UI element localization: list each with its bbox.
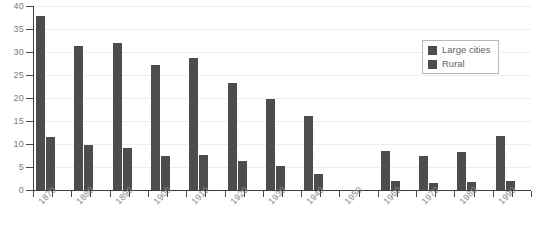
bar <box>419 156 428 190</box>
x-axis-tick <box>148 191 149 197</box>
y-axis-tick-label: 35 <box>0 25 24 34</box>
bar <box>457 152 466 190</box>
bar <box>228 83 237 190</box>
x-axis-tick <box>435 191 436 197</box>
bar <box>266 99 275 190</box>
x-axis-tick <box>244 191 245 197</box>
chart-legend: Large cities Rural <box>422 40 499 74</box>
bar <box>151 65 160 190</box>
y-axis-tick-label: 25 <box>0 71 24 80</box>
legend-item-rural: Rural <box>428 59 491 69</box>
x-axis-tick <box>263 191 264 197</box>
y-axis-tick <box>26 29 34 30</box>
bar <box>74 46 83 190</box>
bar <box>496 136 505 190</box>
x-axis-tick <box>493 191 494 197</box>
caption-text <box>8 239 428 246</box>
y-axis-tick-label: 5 <box>0 163 24 172</box>
y-axis-tick-label: 30 <box>0 48 24 57</box>
x-axis-tick <box>474 191 475 197</box>
bar <box>304 116 313 190</box>
y-axis-tick-label: 0 <box>0 186 24 195</box>
legend-label: Large cities <box>442 45 491 55</box>
x-axis-tick <box>110 191 111 197</box>
y-axis-tick-label: 20 <box>0 94 24 103</box>
x-axis-tick <box>531 191 532 197</box>
bar <box>381 151 390 190</box>
x-axis-tick <box>397 191 398 197</box>
legend-label: Rural <box>442 59 465 69</box>
x-axis-tick <box>90 191 91 197</box>
x-axis-tick <box>416 191 417 197</box>
x-axis-tick <box>301 191 302 197</box>
bar-chart: 0510152025303540 18701880189019001910192… <box>0 0 543 246</box>
x-axis-tick <box>205 191 206 197</box>
y-axis-tick-label: 10 <box>0 140 24 149</box>
x-axis-tick <box>282 191 283 197</box>
x-axis-tick <box>33 191 34 197</box>
y-axis-tick <box>26 144 34 145</box>
legend-swatch-icon <box>428 60 437 69</box>
x-axis-tick <box>339 191 340 197</box>
bar <box>46 137 55 190</box>
bar <box>36 16 45 190</box>
y-axis-tick <box>26 121 34 122</box>
y-axis-tick <box>26 52 34 53</box>
legend-swatch-icon <box>428 46 437 55</box>
x-axis-tick <box>52 191 53 197</box>
x-axis-tick <box>378 191 379 197</box>
bar <box>84 145 93 190</box>
x-axis-tick <box>454 191 455 197</box>
y-axis-tick <box>26 167 34 168</box>
x-axis-tick <box>225 191 226 197</box>
bars-layer <box>33 6 531 190</box>
x-axis-tick <box>129 191 130 197</box>
x-axis-tick <box>359 191 360 197</box>
y-axis-tick <box>26 98 34 99</box>
x-axis-tick <box>512 191 513 197</box>
x-axis-tick <box>186 191 187 197</box>
y-axis-tick-label: 40 <box>0 2 24 11</box>
legend-item-large-cities: Large cities <box>428 45 491 55</box>
x-axis-tick <box>320 191 321 197</box>
y-axis-tick <box>26 75 34 76</box>
y-axis-labels: 0510152025303540 <box>0 0 24 246</box>
bar <box>113 43 122 190</box>
y-axis-tick-label: 15 <box>0 117 24 126</box>
x-axis-tick <box>71 191 72 197</box>
bar <box>189 58 198 190</box>
x-axis-tick <box>167 191 168 197</box>
y-axis-tick <box>26 6 34 7</box>
